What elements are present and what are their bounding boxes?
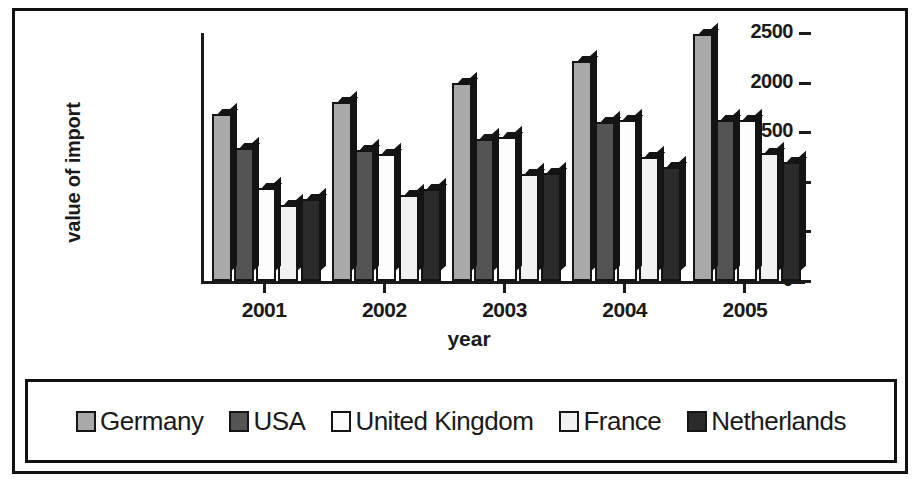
- bar: [256, 188, 276, 281]
- x-axis-tick-label: 2001: [219, 298, 309, 322]
- bar: [781, 162, 801, 281]
- bar-side-shadow: [372, 139, 379, 272]
- legend-item[interactable]: France: [559, 406, 661, 437]
- x-axis-tick-mark: [623, 284, 626, 293]
- plot-region: value of import 25002000150010005000 200…: [15, 11, 911, 371]
- bar-side-shadow: [657, 146, 664, 272]
- x-axis-tick-mark: [743, 284, 746, 293]
- bar-side-shadow: [799, 151, 806, 272]
- x-axis-tick-mark: [503, 284, 506, 293]
- legend-swatch-icon: [331, 411, 351, 432]
- legend-item[interactable]: Germany: [76, 406, 203, 437]
- bar-side-shadow: [679, 156, 686, 272]
- legend-swatch-icon: [229, 411, 249, 432]
- x-axis-tick-label: 2004: [580, 298, 670, 322]
- bar-side-shadow: [515, 126, 522, 272]
- chart-figure: value of import 25002000150010005000 200…: [0, 0, 924, 488]
- bar-side-shadow: [230, 103, 237, 272]
- bar-side-shadow: [350, 91, 357, 272]
- bar-side-shadow: [439, 177, 446, 272]
- legend-item-label: Netherlands: [711, 406, 846, 437]
- bar-side-shadow: [777, 142, 784, 272]
- legend-item[interactable]: USA: [229, 406, 305, 437]
- bars-layer: [204, 33, 805, 281]
- x-axis-tick-label: 2002: [339, 298, 429, 322]
- bar: [452, 83, 472, 281]
- bar: [661, 167, 681, 281]
- bar-side-shadow: [590, 49, 597, 272]
- bar: [354, 150, 374, 281]
- y-axis-title: value of import: [62, 73, 85, 273]
- bar: [693, 34, 713, 281]
- bar-side-shadow: [537, 163, 544, 272]
- x-axis-tick-label: 2003: [460, 298, 550, 322]
- bar-side-shadow: [394, 143, 401, 272]
- bar: [595, 122, 615, 281]
- bar-side-shadow: [755, 109, 762, 272]
- bar-side-shadow: [635, 109, 642, 272]
- bar-side-shadow: [613, 111, 620, 272]
- legend-swatch-icon: [687, 411, 707, 432]
- legend-item-label: Germany: [100, 406, 203, 437]
- bar: [376, 154, 396, 281]
- bar: [212, 114, 232, 281]
- x-axis-title: year: [133, 327, 805, 351]
- bar: [759, 153, 779, 281]
- legend-item-label: USA: [253, 406, 305, 437]
- axes: 25002000150010005000 2001200220032004200…: [133, 33, 805, 284]
- legend-item[interactable]: Netherlands: [687, 406, 846, 437]
- x-axis-tick-label: 2005: [700, 298, 790, 322]
- legend: GermanyUSAUnited KingdomFranceNetherland…: [25, 379, 897, 463]
- bar: [474, 139, 494, 281]
- legend-swatch-icon: [76, 411, 96, 432]
- bar-side-shadow: [559, 162, 566, 272]
- legend-item-label: United Kingdom: [355, 406, 533, 437]
- bar: [301, 199, 321, 281]
- bar-side-shadow: [274, 176, 281, 272]
- x-axis-tick-mark: [263, 284, 266, 293]
- legend-item[interactable]: United Kingdom: [331, 406, 533, 437]
- bar: [399, 195, 419, 281]
- bar-side-shadow: [492, 128, 499, 272]
- bar: [497, 137, 517, 281]
- bar-side-shadow: [470, 71, 477, 272]
- bar: [572, 61, 592, 281]
- x-axis-tick-mark: [383, 284, 386, 293]
- bar-side-shadow: [711, 23, 718, 272]
- bar: [278, 205, 298, 281]
- legend-item-label: France: [583, 406, 661, 437]
- figure-frame: value of import 25002000150010005000 200…: [12, 8, 908, 474]
- bar-side-shadow: [252, 137, 259, 272]
- bar: [332, 102, 352, 281]
- bar-side-shadow: [733, 109, 740, 272]
- legend-swatch-icon: [559, 411, 579, 432]
